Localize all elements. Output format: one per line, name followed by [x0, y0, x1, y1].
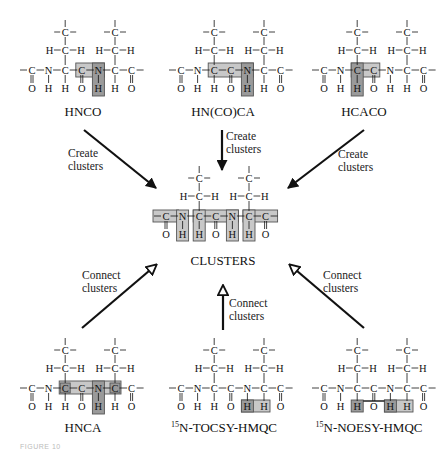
svg-text:C: C [211, 383, 218, 394]
svg-text:O: O [262, 229, 270, 240]
svg-text:O: O [277, 401, 285, 412]
note-create-left: Create clusters [68, 147, 103, 173]
peptide-structure-hncoca: CNCCNCCOHHOHHOHCHCHCHC [169, 20, 293, 96]
svg-text:N: N [95, 65, 103, 76]
svg-text:O: O [78, 83, 86, 94]
note-create-center: Create clusters [226, 130, 261, 156]
svg-text:H: H [111, 83, 119, 94]
svg-text:H: H [337, 401, 345, 412]
svg-text:H: H [244, 45, 252, 56]
isotope-superscript: 15 [171, 420, 179, 429]
label-hnca: HNCA [48, 420, 118, 436]
svg-text:N: N [244, 383, 252, 394]
svg-text:C: C [177, 65, 184, 76]
svg-text:C: C [227, 383, 234, 394]
svg-text:H: H [95, 83, 103, 94]
svg-text:C: C [78, 383, 85, 394]
svg-text:C: C [28, 65, 35, 76]
svg-text:C: C [227, 65, 234, 76]
svg-text:N: N [229, 211, 237, 222]
svg-text:H: H [244, 83, 252, 94]
svg-text:H: H [46, 45, 54, 56]
peptide-structure-clusters: CNCCNCCOHHOHHOHCHCHCHC [153, 166, 278, 241]
svg-text:C: C [354, 363, 361, 374]
svg-text:H: H [229, 191, 237, 202]
svg-text:C: C [403, 65, 410, 76]
svg-text:C: C [403, 383, 410, 394]
svg-text:N: N [194, 65, 202, 76]
svg-text:N: N [179, 211, 187, 222]
svg-text:C: C [320, 383, 327, 394]
svg-text:C: C [196, 211, 203, 222]
svg-text:O: O [28, 401, 36, 412]
svg-text:H: H [95, 45, 103, 56]
peptide-structure-hnco: CNCCNCCOHHOHHOHCHCHCHC [20, 20, 144, 96]
svg-text:C: C [62, 45, 69, 56]
svg-text:C: C [162, 211, 169, 222]
svg-text:C: C [196, 191, 203, 202]
svg-text:H: H [245, 229, 253, 240]
svg-text:N: N [244, 65, 252, 76]
svg-text:C: C [211, 27, 218, 38]
svg-text:C: C [111, 45, 118, 56]
svg-text:H: H [77, 363, 85, 374]
svg-text:H: H [369, 363, 377, 374]
svg-text:C: C [62, 345, 69, 356]
svg-text:N: N [194, 383, 202, 394]
svg-text:N: N [45, 65, 53, 76]
svg-text:O: O [177, 401, 185, 412]
svg-text:C: C [212, 211, 219, 222]
svg-text:H: H [61, 401, 69, 412]
svg-text:O: O [420, 83, 428, 94]
svg-text:H: H [338, 363, 346, 374]
svg-text:C: C [245, 173, 252, 184]
svg-text:O: O [370, 401, 378, 412]
svg-text:O: O [212, 229, 220, 240]
svg-text:O: O [370, 83, 378, 94]
svg-text:C: C [245, 191, 252, 202]
svg-text:H: H [61, 83, 69, 94]
svg-text:H: H [353, 401, 361, 412]
svg-text:C: C [277, 65, 284, 76]
peptide-structure-hcaco: CNCCNCCOHHOHHOHCHCHCHC [312, 20, 436, 96]
svg-text:C: C [211, 363, 218, 374]
svg-text:H: H [195, 363, 203, 374]
svg-text:H: H [338, 45, 346, 56]
note-connect-center: Connect clusters [229, 297, 267, 323]
svg-text:C: C [260, 383, 267, 394]
note-connect-left: Connect clusters [82, 269, 120, 295]
svg-text:C: C [370, 65, 377, 76]
svg-text:H: H [226, 45, 234, 56]
svg-text:H: H [276, 45, 284, 56]
svg-text:H: H [46, 363, 54, 374]
arrows-layer [82, 130, 364, 330]
svg-text:N: N [95, 383, 103, 394]
label-hcaco: HCACO [329, 104, 399, 120]
svg-text:H: H [194, 83, 202, 94]
svg-text:C: C [354, 27, 361, 38]
svg-text:C: C [196, 173, 203, 184]
svg-text:O: O [227, 401, 235, 412]
svg-text:H: H [127, 363, 135, 374]
svg-text:H: H [419, 363, 427, 374]
nmr-assignment-diagram: CNCCNCCOHHOHHOHCHCHCHCCNCCNCCOHHOHHOHCHC… [0, 0, 446, 455]
svg-text:O: O [277, 83, 285, 94]
svg-text:C: C [354, 45, 361, 56]
note-create-right: Create clusters [338, 148, 373, 174]
svg-text:H: H [261, 191, 269, 202]
svg-text:H: H [127, 45, 135, 56]
svg-text:O: O [128, 401, 136, 412]
label-clusters: CLUSTERS [180, 253, 266, 269]
svg-text:C: C [260, 65, 267, 76]
svg-text:N: N [337, 383, 345, 394]
svg-text:H: H [210, 401, 218, 412]
isotope-superscript: 15 [316, 420, 324, 429]
note-connect-right: Connect clusters [323, 269, 361, 295]
svg-text:H: H [226, 363, 234, 374]
svg-text:H: H [403, 401, 411, 412]
svg-text:N: N [387, 65, 395, 76]
svg-text:H: H [353, 83, 361, 94]
label-hnco: HNCO [48, 104, 118, 120]
svg-text:H: H [276, 363, 284, 374]
noesy-name: N-NOESY-HMQC [324, 420, 423, 435]
